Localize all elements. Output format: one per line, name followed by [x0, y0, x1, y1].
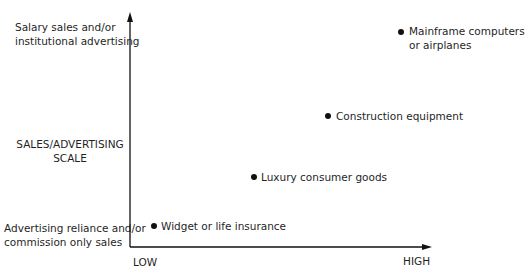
- point-label-widget: Widget or life insurance: [161, 219, 286, 233]
- point-label-luxury: Luxury consumer goods: [261, 170, 387, 184]
- point-label-mainframe: Mainframe computers or airplanes: [409, 24, 525, 52]
- y-bottom-label: Advertising reliance and/or commission o…: [4, 221, 146, 249]
- point-marker-luxury: [251, 174, 257, 180]
- y-bottom-label-line1: Advertising reliance and/or: [4, 221, 146, 235]
- point-marker-construction: [325, 113, 331, 119]
- y-top-label: Salary sales and/or institutional advert…: [15, 20, 139, 48]
- y-bottom-label-line2: commission only sales: [4, 235, 146, 249]
- y-top-label-line1: Salary sales and/or: [15, 20, 139, 34]
- x-high-label: HIGH: [403, 254, 430, 268]
- point-label-construction: Construction equipment: [336, 109, 463, 123]
- point-marker-mainframe: [398, 29, 404, 35]
- x-low-label: LOW: [133, 255, 157, 269]
- point-label-mainframe-line2: or airplanes: [409, 38, 525, 52]
- x-axis-arrow-icon: [422, 244, 432, 250]
- point-label-mainframe-line1: Mainframe computers: [409, 24, 525, 38]
- y-axis-title-line2: SCALE: [14, 151, 126, 165]
- point-marker-widget: [151, 223, 157, 229]
- y-top-label-line2: institutional advertising: [15, 34, 139, 48]
- y-axis-title-line1: SALES/ADVERTISING: [14, 137, 126, 151]
- y-axis-title: SALES/ADVERTISING SCALE: [14, 137, 126, 165]
